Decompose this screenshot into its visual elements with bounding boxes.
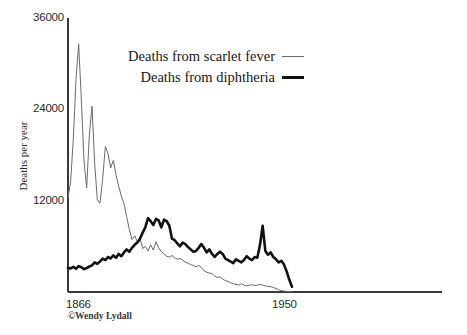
chart-figure: 36000 24000 12000 Deaths per year 1866 1… [0, 0, 467, 335]
series-line-diphtheria [68, 218, 292, 287]
plot-area [0, 0, 467, 335]
